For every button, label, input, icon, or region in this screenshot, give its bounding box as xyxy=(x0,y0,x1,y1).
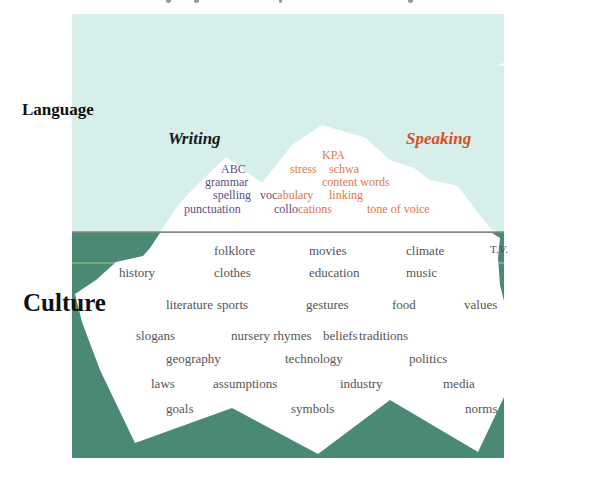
word-collocations-writing-part: collo xyxy=(274,202,298,216)
word-goals: goals xyxy=(166,402,193,415)
word-tone-of-voice: tone of voice xyxy=(367,203,430,215)
word-symbols: symbols xyxy=(291,402,334,415)
word-content-words: content words xyxy=(322,176,390,188)
word-technology: technology xyxy=(285,352,343,365)
word-grammar: grammar xyxy=(205,176,248,188)
word-history: history xyxy=(119,266,155,279)
word-politics: politics xyxy=(409,352,447,365)
word-vocabulary-speaking-part: abulary xyxy=(277,188,313,202)
word-geography: geography xyxy=(166,352,221,365)
word-laws: laws xyxy=(151,377,175,390)
word-tv: T.V. xyxy=(490,244,508,255)
speaking-heading: Speaking xyxy=(406,130,471,147)
word-stress: stress xyxy=(290,163,317,175)
word-media: media xyxy=(443,377,475,390)
word-folklore: folklore xyxy=(214,244,255,257)
culture-label: Culture xyxy=(23,290,106,315)
word-assumptions: assumptions xyxy=(213,377,277,390)
word-movies: movies xyxy=(309,244,347,257)
word-slogans: slogans xyxy=(136,329,175,342)
word-norms: norms xyxy=(465,402,498,415)
word-industry: industry xyxy=(340,377,383,390)
word-beliefs: beliefs xyxy=(323,329,358,342)
word-gestures: gestures xyxy=(306,298,349,311)
word-spelling: spelling xyxy=(213,189,251,201)
writing-heading: Writing xyxy=(168,130,221,147)
word-collocations: collocations xyxy=(274,203,332,215)
word-education: education xyxy=(309,266,360,279)
bird-icon xyxy=(503,95,535,111)
word-punctuation: punctuation xyxy=(184,203,241,215)
word-traditions: traditions xyxy=(359,329,408,342)
word-clothes: clothes xyxy=(214,266,251,279)
word-music: music xyxy=(406,266,437,279)
word-collocations-speaking-part: cations xyxy=(298,202,332,216)
word-values: values xyxy=(464,298,497,311)
word-nursery-rhymes: nursery rhymes xyxy=(231,329,312,342)
language-label: Language xyxy=(22,101,94,118)
word-climate: climate xyxy=(406,244,444,257)
word-literature: literature xyxy=(166,298,213,311)
word-abc: ABC xyxy=(221,163,246,175)
iceberg-diagram: Language Culture Writing Speaking ABC gr… xyxy=(0,0,608,480)
word-sports: sports xyxy=(217,298,248,311)
word-linking: linking xyxy=(329,189,363,201)
word-vocabulary: vocabulary xyxy=(260,189,313,201)
word-food: food xyxy=(392,298,416,311)
word-vocabulary-writing-part: voc xyxy=(260,188,277,202)
word-schwa: schwa xyxy=(329,163,359,175)
word-kpa: KPA xyxy=(322,149,345,161)
